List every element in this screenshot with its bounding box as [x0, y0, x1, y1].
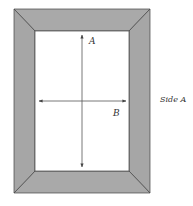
- side-a-label: Side A: [160, 95, 186, 104]
- label-b: B: [112, 108, 120, 118]
- frame-left-side: [14, 9, 35, 193]
- label-a: A: [88, 36, 96, 46]
- frame-right-side: [129, 9, 150, 193]
- frame-bottom-side: [14, 171, 150, 193]
- frame-diagram: A B Side A: [0, 0, 193, 206]
- frame-top-side: [14, 9, 150, 31]
